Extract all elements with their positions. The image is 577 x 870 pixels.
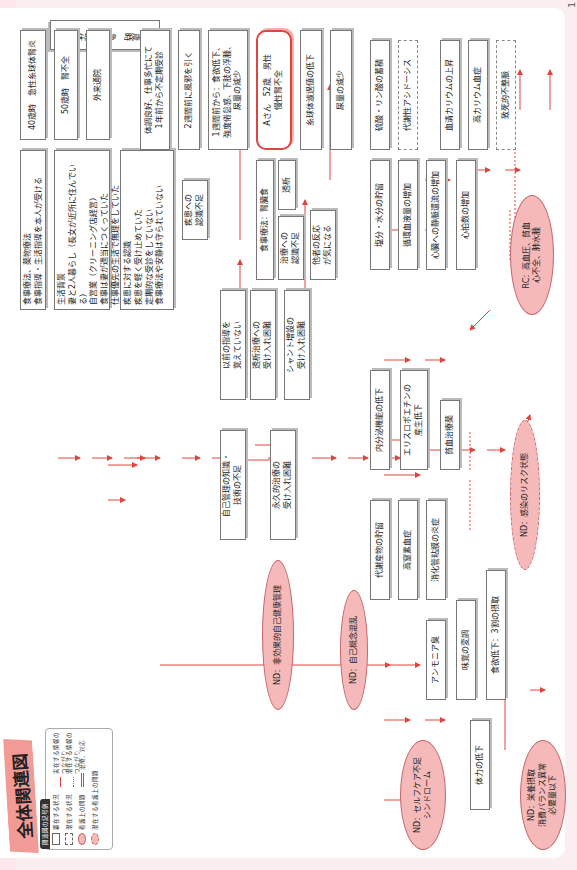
node-self-mgmt-lack: 自己管理の知識・ 技術の不足 [220, 430, 246, 540]
solid-box-icon [52, 833, 60, 845]
node-circ-blood: 循環血液量の増加 [398, 160, 418, 270]
node-gfr-down: 糸球体濾過値の低下 [300, 30, 322, 150]
node-metabolite: 代謝産物の貯留 [370, 500, 390, 600]
node-treatment-insufficient: 治療への 認識不足 [278, 216, 304, 280]
node-salt-water: 塩分・水分の貯留 [370, 160, 390, 270]
problem-selfcare: ND：セルフケア不足 シンドローム [400, 740, 446, 850]
node-appetite-down: 食欲低下：3割の摂取 [486, 570, 506, 700]
node-gi-inflammation: 消化管粘膜の炎症 [426, 500, 446, 600]
diagram-canvas: 全体関連図 関連図の記号例 顕在する状況 潜在する状況 看護上の問題 潜在する看… [0, 0, 577, 870]
node-not-remember: 以前の指導を 覚えていない [220, 290, 246, 400]
problem-nutrition: ND：栄養摂取 消費バランス異常 必要量以下 [520, 740, 566, 850]
node-patient: Aさん 52歳 男性 慢性腎不全 [256, 30, 292, 150]
node-diet-med: 食事療法：腎臓食 [256, 160, 274, 280]
legend-item: 看護上の問題 [78, 794, 86, 845]
node-disease-awareness: 疾患に対する認識 疾患を軽く受け止めていた 定期的な受診をしていない 食事療法や… [120, 150, 174, 310]
node-age50: 50歳時 腎不全 [54, 30, 78, 140]
node-cold: 2週間前に風邪を引く [178, 30, 200, 150]
node-dialysis: 透析 [278, 160, 296, 210]
node-outpatient: 外来通院 [86, 30, 110, 140]
dotted-arrow-icon [73, 777, 74, 787]
node-epo-down: エリスロポエチンの 産生低下 [400, 370, 428, 470]
node-endocrine-down: 内分泌機能の低下 [370, 370, 390, 470]
node-heart-rate: 心拍数の増加 [456, 160, 476, 270]
legend-item: 顕在する状況 [52, 794, 60, 845]
problem-infection: ND：感染のリスク状態 [510, 420, 540, 570]
node-urine-down: 尿量の減少 [330, 30, 352, 150]
legend-title: 関連図の記号例 [40, 799, 50, 849]
problem-self-concept: ND：自己概念混乱 [340, 590, 368, 710]
legend-item: 潜在する看護上の問題 [91, 770, 99, 845]
problem-rc: RC：高血圧、貧血 心不全、肺水腫 [510, 195, 554, 315]
legend-item: 潜在する状況 [65, 794, 73, 845]
node-stamina-down: 体力の低下 [470, 720, 490, 810]
node-potassium-up: 血清カリウムの上昇 [440, 40, 460, 150]
node-anemia-tx: 貧血治療薬 [440, 400, 460, 470]
node-age40-h: 40歳時 急性糸球体腎炎 [20, 30, 46, 140]
page-number: 1 [567, 2, 577, 8]
node-shunt-acceptance: シャント増設の 受け入れ困難 [284, 290, 310, 400]
legend-item: 治療、対応 [78, 740, 86, 787]
node-disease-insufficient: 疾患への 認識不足 [182, 180, 208, 240]
oval-icon [78, 833, 86, 845]
dashed-box-icon [65, 833, 73, 845]
node-venous-return: 心臓への静脈還流の増加 [426, 160, 446, 270]
double-arrow-icon [81, 773, 84, 787]
node-arrhythmia: 致死的不整脈 [496, 40, 516, 150]
node-ammonia: アンモニア臭 [426, 620, 446, 700]
node-one-week: 1週間前から：食欲低下、 強度倦怠感、下肢の浮腫、 尿量の減少 [208, 30, 248, 150]
node-permanent-acceptance: 永久的治療の 受け入れ困難 [270, 430, 296, 540]
node-others-reaction: 他者の反応 が気になる [310, 210, 336, 280]
dashed-oval-icon [91, 833, 99, 845]
node-acidosis: 代謝性アシドーシス [398, 40, 418, 150]
legend: 関連図の記号例 顕在する状況 潜在する状況 看護上の問題 潜在する看護上の問題 … [45, 728, 113, 850]
problem-ineffective-health-h: ND：非効果的自己健康管理 [262, 560, 294, 710]
node-hyperkalemia: 高カリウム血症 [468, 40, 488, 150]
node-treatment-initial: 食事療法、薬物療法 食事指導・生活指導を本人が受ける [20, 150, 46, 310]
node-sulfate: 硫酸・リン酸の蓄積 [370, 40, 390, 150]
node-taste-change: 味覚の変調 [456, 600, 476, 700]
node-life-background: 生活背景 妻と2人暮らし（長女が近所に住んでいる） 自営業（クリーニング店経営）… [54, 150, 110, 310]
node-dialysis-acceptance: 透析治療への 受け入れ困難 [250, 290, 276, 400]
node-uremia: 高窒素血症 [398, 500, 418, 600]
node-health-good-h: 体調良好、仕事多忙にて 1年前から不定期受診 [140, 30, 170, 150]
solid-arrow-icon [60, 777, 61, 787]
